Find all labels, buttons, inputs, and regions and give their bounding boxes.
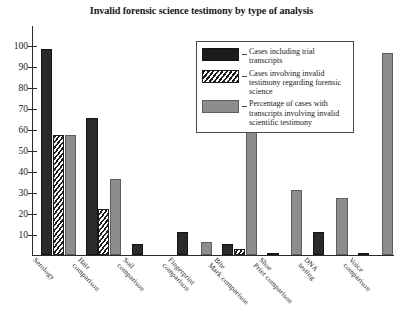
bar — [98, 209, 109, 255]
y-tick-label: 80 — [19, 83, 29, 93]
y-tick-label: 40 — [19, 167, 29, 177]
x-axis-label: ShoePrint comparison — [251, 256, 300, 306]
y-tick-label: 50 — [19, 146, 29, 156]
y-tick-label: 60 — [19, 125, 29, 135]
bar — [110, 179, 121, 255]
bar — [222, 244, 233, 255]
legend-connector — [242, 54, 247, 55]
y-tick-label: 70 — [19, 104, 29, 114]
chart-legend: Cases including trial transcriptsCases i… — [196, 41, 354, 133]
bar — [65, 135, 76, 255]
legend-label: Percentage of cases with transcripts inv… — [249, 99, 349, 127]
y-tick-label: 10 — [19, 230, 29, 240]
legend-connector — [242, 76, 247, 77]
y-tick-label: 100 — [14, 41, 28, 51]
x-axis-label: Fingerprintcomparison — [160, 256, 197, 294]
x-axis-label: Serology — [30, 256, 55, 282]
bar — [86, 118, 97, 255]
bar — [313, 232, 324, 255]
bar — [358, 253, 369, 255]
bar — [201, 242, 212, 255]
x-axis-category-labels: SerologyHaircomparisonSoilcomparisonFing… — [32, 256, 403, 323]
x-axis-label: Haircomparison — [70, 256, 107, 294]
bar — [41, 49, 52, 255]
bar — [234, 249, 245, 255]
legend-swatch — [202, 100, 239, 113]
y-tick-label: 20 — [19, 209, 29, 219]
legend-swatch — [202, 70, 239, 83]
x-axis-label: DNAtesting — [296, 256, 323, 283]
x-axis-label: Voicecomparison — [341, 256, 378, 294]
x-axis-label: BiteMark comparison — [205, 256, 255, 307]
y-tick-label: 30 — [19, 188, 29, 198]
bar-group — [86, 26, 121, 255]
bar-group — [41, 26, 76, 255]
bar-group — [358, 26, 393, 255]
chart-title: Invalid forensic science testimony by ty… — [0, 5, 403, 16]
legend-item: Cases involving invalid testimony regard… — [202, 69, 349, 97]
legend-item: Cases including trial transcripts — [202, 47, 349, 66]
x-axis-label: Soilcomparison — [115, 256, 152, 294]
legend-connector — [242, 106, 247, 107]
legend-label: Cases involving invalid testimony regard… — [249, 69, 349, 97]
bar — [291, 190, 302, 255]
bar — [246, 116, 257, 255]
bar — [267, 253, 278, 255]
bar — [132, 244, 143, 255]
bar — [177, 232, 188, 255]
bar — [382, 53, 393, 255]
legend-swatch — [202, 48, 239, 61]
bar — [336, 198, 347, 255]
chart-figure: Invalid forensic science testimony by ty… — [0, 0, 403, 323]
bar-group — [132, 26, 167, 255]
legend-label: Cases including trial transcripts — [249, 47, 349, 66]
bar — [53, 135, 64, 255]
y-tick-label: 90 — [19, 62, 29, 72]
legend-item: Percentage of cases with transcripts inv… — [202, 99, 349, 127]
